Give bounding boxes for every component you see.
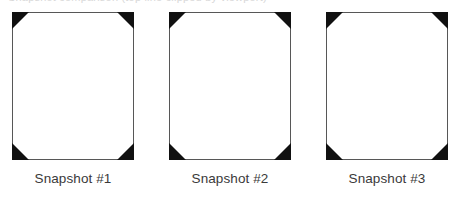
corner-marker-top-left-icon xyxy=(12,12,29,29)
corner-marker-top-right-icon xyxy=(431,12,448,29)
corner-marker-bottom-right-icon xyxy=(117,143,134,160)
snapshot-caption: Snapshot #1 xyxy=(12,171,134,187)
snapshot-cell[interactable]: Snapshot #3 xyxy=(326,12,448,187)
corner-marker-bottom-right-icon xyxy=(431,143,448,160)
corner-marker-bottom-left-icon xyxy=(326,143,343,160)
corner-marker-bottom-left-icon xyxy=(169,143,186,160)
corner-marker-top-right-icon xyxy=(274,12,291,29)
corner-marker-top-right-icon xyxy=(117,12,134,29)
snapshot-cell[interactable]: Snapshot #1 xyxy=(12,12,134,187)
corner-marker-bottom-left-icon xyxy=(12,143,29,160)
corner-marker-bottom-right-icon xyxy=(274,143,291,160)
snapshot-frame[interactable] xyxy=(326,12,448,160)
corner-marker-top-left-icon xyxy=(326,12,343,29)
snapshot-caption: Snapshot #2 xyxy=(169,171,291,187)
snapshot-frame[interactable] xyxy=(12,12,134,160)
snapshot-cell[interactable]: Snapshot #2 xyxy=(169,12,291,187)
snapshot-frame[interactable] xyxy=(169,12,291,160)
corner-marker-top-left-icon xyxy=(169,12,186,29)
snapshot-caption: Snapshot #3 xyxy=(326,171,448,187)
snapshot-row: Snapshot #1 Snapshot #2 Snapshot #3 xyxy=(0,0,460,197)
